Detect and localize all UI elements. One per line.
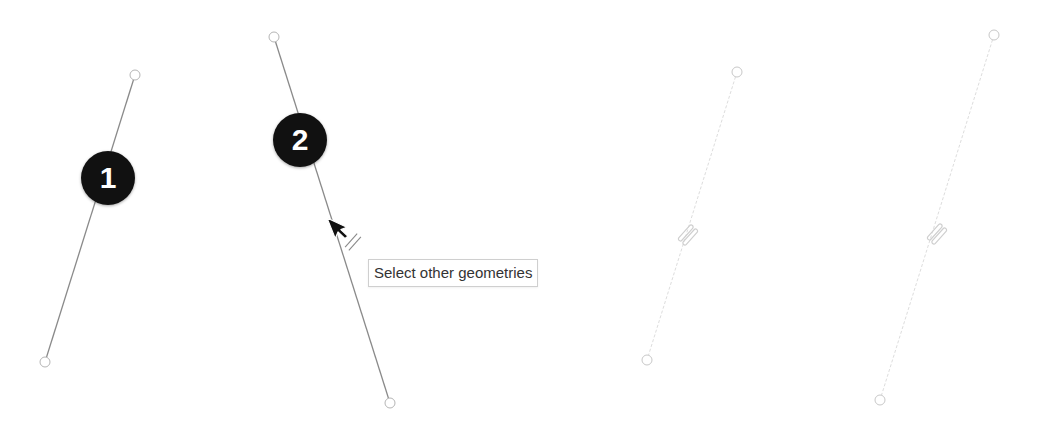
parallel-constraint-icon[interactable] (678, 224, 699, 246)
lines-layer (40, 30, 999, 408)
sketch-canvas[interactable] (0, 0, 1037, 429)
endpoint-end[interactable] (642, 355, 652, 365)
sketch-line-1[interactable] (40, 70, 140, 367)
endpoint-start[interactable] (269, 32, 279, 42)
step-badge-1: 1 (81, 151, 135, 205)
sketch-line-3[interactable] (642, 67, 742, 365)
constraints-layer (345, 223, 947, 250)
line-segment[interactable] (881, 40, 992, 395)
line-segment[interactable] (46, 80, 133, 357)
endpoint-start[interactable] (989, 30, 999, 40)
endpoint-start[interactable] (130, 70, 140, 80)
endpoint-end[interactable] (385, 398, 395, 408)
sketch-line-4[interactable] (875, 30, 999, 405)
endpoint-end[interactable] (40, 357, 50, 367)
step-badge-2: 2 (273, 113, 327, 167)
endpoint-end[interactable] (875, 395, 885, 405)
endpoint-start[interactable] (732, 67, 742, 77)
line-segment[interactable] (648, 77, 735, 355)
tooltip-select-other-geometries: Select other geometries (368, 259, 538, 287)
